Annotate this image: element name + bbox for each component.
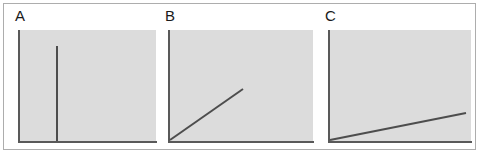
panel-c-series <box>0 0 482 156</box>
figure-root: A B C <box>0 0 482 156</box>
panel-c-trend-line <box>330 113 466 140</box>
